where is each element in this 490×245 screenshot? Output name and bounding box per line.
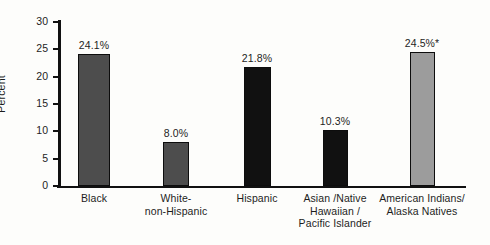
bar-value-label: 24.5%* bbox=[390, 37, 454, 49]
bar-value-label: 8.0% bbox=[144, 127, 208, 139]
bar bbox=[244, 67, 271, 186]
bar-chart: Percent 051015202530 BlackWhite- non-His… bbox=[0, 0, 490, 245]
y-axis-tick-label: 25 bbox=[0, 42, 48, 54]
bar-value-label: 24.1% bbox=[62, 39, 126, 51]
bar bbox=[78, 54, 110, 186]
x-axis-category-label: American Indians/ Alaska Natives bbox=[367, 192, 477, 217]
bar bbox=[163, 142, 189, 186]
y-axis-tick-label: 5 bbox=[0, 152, 48, 164]
bar-value-label: 10.3% bbox=[303, 115, 367, 127]
bar-value-label: 21.8% bbox=[225, 52, 289, 64]
bar bbox=[410, 52, 435, 186]
y-axis-tick-label: 30 bbox=[0, 15, 48, 27]
y-axis-tick-label: 10 bbox=[0, 124, 48, 136]
y-axis-tick-label: 0 bbox=[0, 179, 48, 191]
bar bbox=[323, 130, 348, 186]
y-axis-tick-label: 15 bbox=[0, 97, 48, 109]
y-axis-tick-label: 20 bbox=[0, 70, 48, 82]
